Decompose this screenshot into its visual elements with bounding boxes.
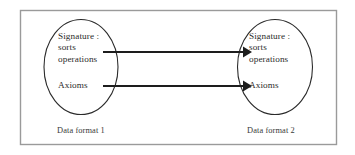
diagram-canvas: Signature : sorts operations Axioms Data… <box>0 0 355 155</box>
left-operations-label: operations <box>58 54 99 65</box>
left-data-format-caption: Data format 1 <box>57 125 105 136</box>
diagram-graphics <box>0 0 355 155</box>
right-data-format-caption: Data format 2 <box>247 125 295 136</box>
right-signature-label: Signature : <box>249 31 290 42</box>
left-signature-label: Signature : <box>58 31 99 42</box>
right-signature-block: Signature : sorts operations <box>249 31 290 65</box>
right-axioms-label: Axioms <box>249 80 279 91</box>
right-operations-label: operations <box>249 54 290 65</box>
left-axioms-label: Axioms <box>58 80 88 91</box>
left-signature-block: Signature : sorts operations <box>58 31 99 65</box>
left-sorts-label: sorts <box>58 42 99 53</box>
right-sorts-label: sorts <box>249 42 290 53</box>
